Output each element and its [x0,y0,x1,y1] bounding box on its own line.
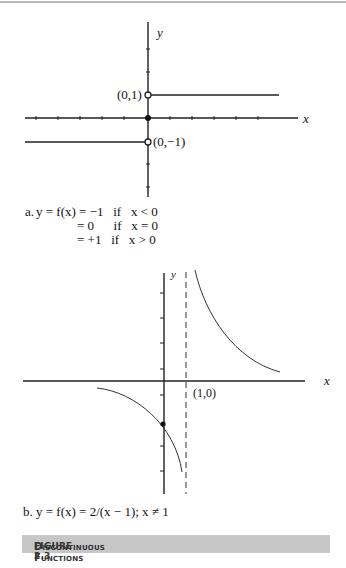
x-axis-label-b: x [324,374,330,388]
x-axis-label-a: x [303,112,309,126]
chart-panel-a [0,0,346,200]
y-axis-label-b: y [171,267,176,281]
figure-title: Discontinuous Functions [34,541,105,563]
point-label-b: (1,0) [193,386,216,400]
point-label-upper: (0,1) [117,88,142,102]
figure-caption-bar: FIGURE 2.3 Discontinuous Functions [22,535,330,553]
caption-a-line2: = 0 if x = 0 [77,219,158,233]
caption-b: b. y = f(x) = 2/(x − 1); x ≠ 1 [23,505,169,519]
caption-a-line1-eq: y = f(x) = −1 if x < 0 [36,205,158,219]
caption-a-line3: = +1 if x > 0 [77,233,156,247]
y-axis-label-a: y [157,26,163,40]
point-label-lower: (0,−1) [153,135,185,149]
